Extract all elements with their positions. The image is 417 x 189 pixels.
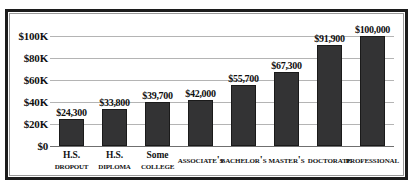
bar (274, 72, 299, 146)
bar-value-label: $100,000 (343, 24, 403, 35)
y-tick-label: $60K (0, 75, 48, 85)
y-tick-label: $100K (0, 31, 48, 41)
y-tick-label: $40K (0, 97, 48, 107)
y-tick-label: $20K (0, 119, 48, 129)
gridline-0 (50, 146, 394, 147)
bar (188, 100, 213, 146)
bar (59, 119, 84, 146)
y-tick-label: $0 (0, 141, 48, 151)
bar-value-label: $42,000 (171, 88, 231, 99)
y-tick-label: $80K (0, 53, 48, 63)
bar (317, 45, 342, 146)
bar (360, 36, 385, 146)
gridline-80K (50, 58, 394, 59)
x-axis-label: Professional (345, 155, 401, 166)
bar (145, 102, 170, 146)
y-axis: $0$20K$40K$60K$80K$100K (0, 0, 48, 189)
bar-chart: $0$20K$40K$60K$80K$100K $24,300$33,800$3… (0, 0, 417, 189)
bar (102, 109, 127, 146)
bar-value-label: $24,300 (42, 107, 102, 118)
bar-value-label: $67,300 (257, 60, 317, 71)
bar-value-label: $55,700 (214, 73, 274, 84)
bar (231, 85, 256, 146)
